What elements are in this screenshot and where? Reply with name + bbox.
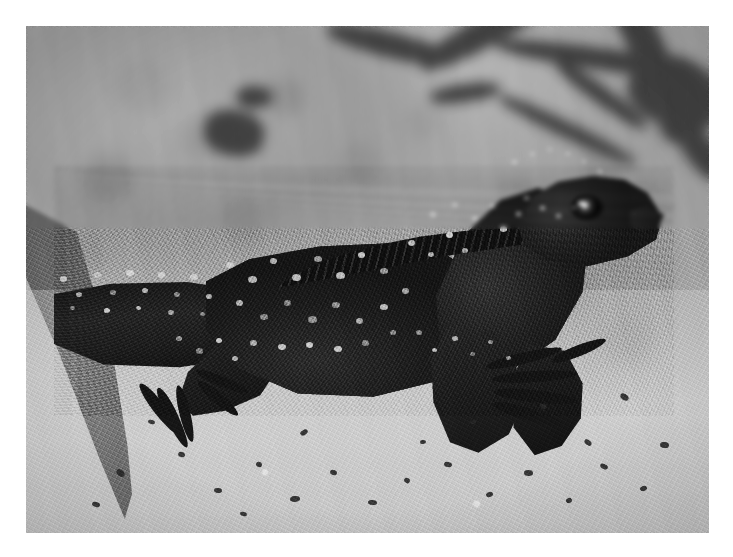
screenshot-canvas: spiny-tailed lizard standing on sand, fa…	[0, 0, 733, 557]
film-grain	[26, 26, 709, 533]
lizard-photograph	[26, 26, 709, 533]
